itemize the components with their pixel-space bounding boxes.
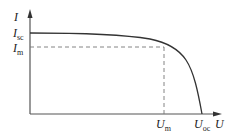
y-axis-label: I: [14, 11, 18, 23]
x-axis-arrow-icon: [213, 112, 222, 117]
im-label: Im: [13, 42, 23, 57]
um-label: Um: [156, 118, 171, 133]
iu-curve: [30, 33, 202, 114]
y-axis-arrow-icon: [28, 9, 33, 18]
x-axis-label: U: [215, 118, 224, 130]
uoc-label: Uoc: [194, 118, 210, 133]
